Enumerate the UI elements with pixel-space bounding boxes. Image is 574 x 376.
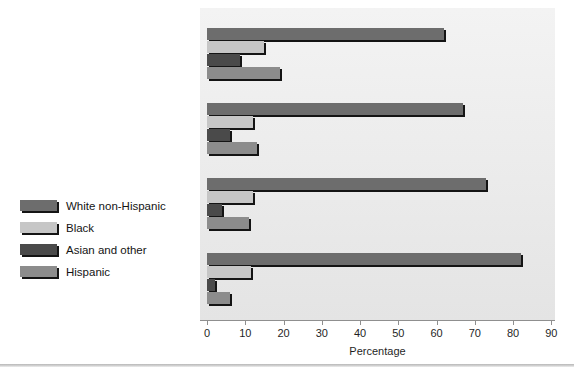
x-tick-label-70: 70 (469, 327, 481, 339)
bar-row (200, 266, 555, 278)
bar-row (200, 116, 555, 128)
legend-item-black[interactable]: Black (20, 219, 166, 236)
x-tick-0 (207, 320, 208, 325)
legend-swatch-icon (20, 222, 57, 233)
x-tick-90 (551, 320, 552, 325)
bar-row (200, 103, 555, 115)
legend-swatch-icon (20, 266, 57, 277)
legend-label: White non-Hispanic (66, 200, 166, 212)
x-tick-label-0: 0 (204, 327, 210, 339)
bar-1980-hispanic (207, 292, 230, 304)
x-tick-label-10: 10 (239, 327, 251, 339)
bar-row (200, 129, 555, 141)
chart-root: 2025201519981980 0102030405060708090 Per… (0, 0, 574, 376)
x-tick-30 (322, 320, 323, 325)
bar-group-2015: 2015 (200, 103, 555, 155)
bar-row (200, 67, 555, 79)
bar-2015-asian-and-other (207, 129, 230, 141)
bar-group-1998: 1998 (200, 178, 555, 230)
bar-row (200, 217, 555, 229)
bar-row (200, 28, 555, 40)
bar-1998-hispanic (207, 217, 249, 229)
bar-2025-asian-and-other (207, 54, 240, 66)
bar-row (200, 204, 555, 216)
plot-area: 2025201519981980 (200, 8, 555, 320)
x-tick-label-80: 80 (507, 327, 519, 339)
bar-2025-white-non-hispanic (207, 28, 444, 40)
x-tick-40 (360, 320, 361, 325)
legend-item-white-non-hispanic[interactable]: White non-Hispanic (20, 197, 166, 214)
x-axis-title: Percentage (200, 345, 555, 357)
x-tick-20 (284, 320, 285, 325)
bar-row (200, 279, 555, 291)
bar-2015-black (207, 116, 253, 128)
bar-2015-white-non-hispanic (207, 103, 463, 115)
x-tick-label-30: 30 (316, 327, 328, 339)
bar-group-1980: 1980 (200, 253, 555, 305)
chart-legend: White non-HispanicBlackAsian and otherHi… (20, 197, 166, 285)
legend-item-asian-and-other[interactable]: Asian and other (20, 241, 166, 258)
bar-2025-hispanic (207, 67, 280, 79)
x-tick-80 (513, 320, 514, 325)
bar-row (200, 142, 555, 154)
bar-row (200, 178, 555, 190)
x-tick-label-20: 20 (277, 327, 289, 339)
x-tick-60 (437, 320, 438, 325)
legend-label: Black (66, 222, 94, 234)
bar-row (200, 41, 555, 53)
legend-label: Asian and other (66, 244, 147, 256)
x-tick-50 (398, 320, 399, 325)
legend-item-hispanic[interactable]: Hispanic (20, 263, 166, 280)
bar-1980-black (207, 266, 251, 278)
bar-1998-black (207, 191, 253, 203)
bar-row (200, 253, 555, 265)
bar-group-2025: 2025 (200, 28, 555, 80)
bar-row (200, 54, 555, 66)
legend-swatch-icon (20, 200, 57, 211)
footer-divider (0, 364, 574, 367)
bar-1980-asian-and-other (207, 279, 215, 291)
legend-label: Hispanic (66, 266, 110, 278)
x-tick-label-90: 90 (545, 327, 557, 339)
bar-2025-black (207, 41, 264, 53)
bar-1980-white-non-hispanic (207, 253, 521, 265)
bar-1998-white-non-hispanic (207, 178, 486, 190)
bar-2015-hispanic (207, 142, 257, 154)
x-axis-line (200, 320, 555, 321)
bar-1998-asian-and-other (207, 204, 222, 216)
bar-row (200, 292, 555, 304)
x-tick-10 (245, 320, 246, 325)
bar-row (200, 191, 555, 203)
x-tick-label-40: 40 (354, 327, 366, 339)
legend-swatch-icon (20, 244, 57, 255)
x-tick-70 (475, 320, 476, 325)
x-tick-label-60: 60 (430, 327, 442, 339)
x-tick-label-50: 50 (392, 327, 404, 339)
